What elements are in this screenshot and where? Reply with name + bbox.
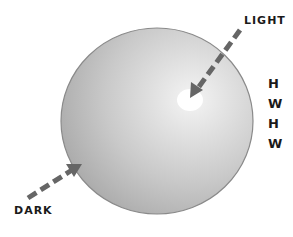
dark-arrow-icon	[28, 164, 82, 198]
side-text-line-1: H	[268, 76, 279, 91]
light-label: LIGHT	[244, 14, 286, 27]
side-text-line-4: W	[268, 136, 282, 151]
side-text-line-3: H	[268, 116, 279, 131]
dark-label: DARK	[14, 204, 53, 217]
shaded-sphere-diagram	[0, 0, 293, 237]
side-text-line-2: W	[268, 96, 282, 111]
